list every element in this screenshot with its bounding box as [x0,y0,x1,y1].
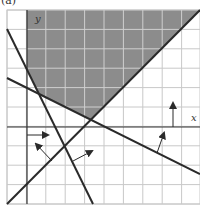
arrow-normal-shallow-line [157,133,164,153]
y-axis-label: y [35,13,41,24]
shaded-feasible-region [27,10,200,120]
x-axis-label: x [191,112,197,123]
panel-label: (a) [1,0,16,7]
arrow-normal-steep-line [36,144,52,161]
feasible-region-diagram [0,0,200,207]
arrow-normal-diagonal-line [73,151,92,161]
